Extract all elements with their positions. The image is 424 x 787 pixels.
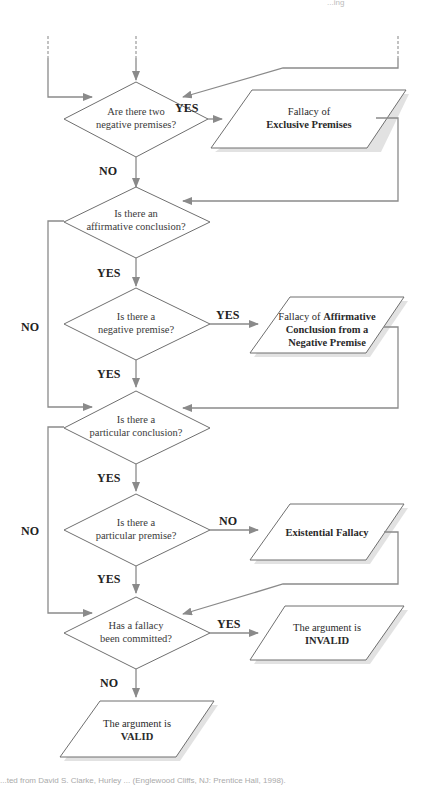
- svg-text:Existential Fallacy: Existential Fallacy: [285, 527, 369, 538]
- decision-fallacy-committed: Has a fallacy been committed?: [64, 597, 210, 669]
- svg-text:been committed?: been committed?: [100, 633, 172, 644]
- label-d6-no: NO: [100, 676, 118, 690]
- decision-particular-conclusion: Is there a particular conclusion?: [64, 391, 210, 464]
- source-caption: ...ted from David S. Clarke, Hurley ... …: [0, 776, 286, 785]
- result-invalid: The argument is INVALID: [250, 606, 408, 664]
- decision-particular-premise: Is there a particular premise?: [64, 494, 210, 566]
- label-d2-yes: YES: [97, 266, 121, 280]
- svg-text:Negative Premise: Negative Premise: [288, 337, 366, 348]
- svg-text:Are there two: Are there two: [107, 106, 165, 117]
- label-d1-no: NO: [99, 164, 117, 178]
- result-exclusive-premises: Fallacy of Exclusive Premises: [211, 90, 409, 152]
- svg-text:Exclusive Premises: Exclusive Premises: [266, 119, 351, 130]
- svg-text:VALID: VALID: [121, 731, 154, 742]
- label-d6-yes: YES: [217, 617, 241, 631]
- label-d5-no: NO: [219, 514, 237, 528]
- incoming-connectors: [48, 36, 398, 97]
- svg-text:Has a fallacy: Has a fallacy: [109, 620, 165, 631]
- svg-text:Fallacy of Affirmative: Fallacy of Affirmative: [278, 311, 376, 322]
- svg-text:INVALID: INVALID: [305, 635, 350, 646]
- result-valid: The argument is VALID: [60, 701, 218, 761]
- svg-text:negative premises?: negative premises?: [96, 119, 177, 130]
- svg-text:The argument is: The argument is: [293, 622, 361, 633]
- svg-text:The argument is: The argument is: [103, 718, 171, 729]
- label-d3-yes-right: YES: [216, 308, 240, 322]
- svg-text:particular premise?: particular premise?: [96, 530, 177, 541]
- label-d4-yes: YES: [97, 471, 121, 485]
- result-existential-fallacy: Existential Fallacy: [250, 504, 408, 564]
- svg-text:Fallacy of: Fallacy of: [288, 106, 331, 117]
- svg-text:negative premise?: negative premise?: [98, 324, 174, 335]
- label-d2-no: NO: [21, 320, 39, 334]
- svg-text:particular conclusion?: particular conclusion?: [89, 427, 182, 438]
- decision-affirmative-conclusion: Is there an affirmative conclusion?: [64, 187, 210, 258]
- svg-text:Is there an: Is there an: [114, 208, 158, 219]
- label-d3-yes-down: YES: [97, 367, 121, 381]
- page-header-fragment: ...ing: [327, 0, 344, 7]
- fallacy-flowchart: ...ing Are there two negative premises? …: [0, 0, 424, 787]
- svg-text:Is there a: Is there a: [117, 517, 156, 528]
- label-d1-yes: YES: [175, 101, 199, 115]
- svg-text:Is there a: Is there a: [117, 414, 156, 425]
- label-d5-yes: YES: [97, 572, 121, 586]
- label-d4-no: NO: [21, 524, 39, 538]
- decision-two-negative-premises: Are there two negative premises?: [64, 82, 208, 157]
- svg-text:Conclusion from a: Conclusion from a: [286, 324, 369, 335]
- svg-text:Is there a: Is there a: [117, 311, 156, 322]
- svg-text:affirmative conclusion?: affirmative conclusion?: [86, 221, 186, 232]
- decision-negative-premise: Is there a negative premise?: [64, 288, 210, 360]
